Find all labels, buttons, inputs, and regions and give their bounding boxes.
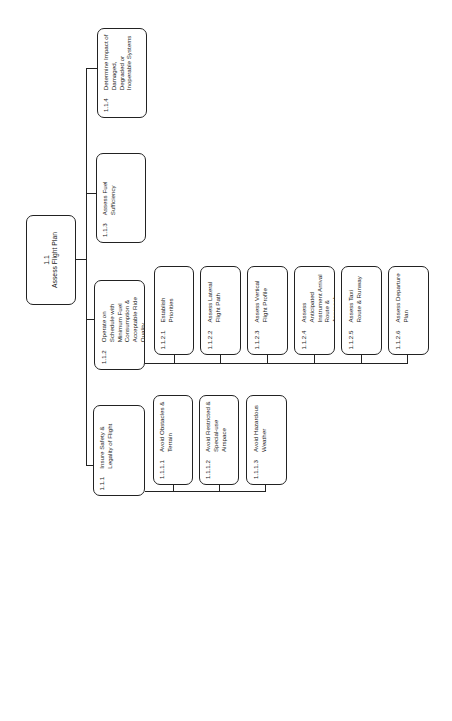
node-label: Insure Safety & Legality of Flight [98,411,114,468]
stub-1.1.2.3 [267,355,268,363]
node-1.1.3[interactable]: 1.1.3 Assess Fuel Sufficiency [96,153,146,243]
node-id: 1.1.1.1 [158,460,166,479]
branch-1.1.3 [86,193,96,194]
node-label: Assess Fuel Sufficiency [101,159,117,215]
node-1.1.1.1[interactable]: 1.1.1.1 Avoid Obstacles & Terrain [153,395,193,485]
node-1.1.2.1[interactable]: 1.1.2.1 Establish Priorities [154,266,194,355]
node-id: 1.1.2.3 [252,330,260,349]
branch-1.1.4 [86,68,97,69]
node-label: Assess Flight Plan [51,232,59,288]
node-1.1-assess-flight-plan[interactable]: 1.1 Assess Flight Plan [26,215,76,305]
group-1.1.1-bus [145,491,266,492]
stub-1.1.1.3 [265,485,266,491]
node-id: 1.1.2.5 [346,330,354,349]
node-id: 1.1.3 [101,223,109,237]
node-id: 1.1.2.4 [299,330,307,349]
stub-1.1.1.2 [219,485,220,491]
node-label: Avoid Obstacles & Terrain [158,401,174,452]
group-1.1.2-bus [145,363,408,364]
node-1.1.2.3[interactable]: 1.1.2.3 Assess Vertical Flight Profile [247,266,288,355]
node-label: Determine Impact of Damaged, Degraded or… [102,34,133,90]
node-label: Assess Vertical Flight Profile [252,272,268,322]
stub-1.1.2.2 [220,355,221,363]
node-label: Establish Priorities [159,272,175,322]
node-label: Assess Anticipated Instrument Arrival Ro… [299,272,335,322]
node-label: Avoid Hazardous Weather [251,401,267,452]
node-id: 1.1.1 [98,476,106,490]
node-id: 1.1.1.3 [251,460,259,479]
node-1.1.1.2[interactable]: 1.1.1.2 Avoid Restricted & Special-use A… [199,395,239,485]
stub-1.1.2.6 [407,355,408,363]
node-label: Operate on Schedule with Minimum Fuel Co… [99,286,145,342]
stub-1.1.1.1 [173,485,174,491]
node-id: 1.1.1.2 [204,460,212,479]
node-1.1.2.2[interactable]: 1.1.2.2 Assess Lateral Flight Path [200,266,241,355]
node-1.1.4[interactable]: 1.1.4 Determine Impact of Damaged, Degra… [97,28,147,118]
node-id: 1.1.2.6 [393,330,401,349]
node-id: 1.1.2.2 [205,330,213,349]
root-connector [76,259,86,260]
stub-1.1.2.4 [314,355,315,363]
node-1.1.2.6[interactable]: 1.1.2.6 Assess Departure Plan [388,266,429,355]
node-1.1.1[interactable]: 1.1.1 Insure Safety & Legality of Flight [93,405,145,496]
node-label: Assess Departure Plan [393,272,409,322]
stub-1.1.2.5 [361,355,362,363]
node-id: 1.1.2 [99,350,107,364]
node-label: Avoid Restricted & Special-use Airspace [204,401,227,452]
trunk-line [86,68,87,466]
node-id: 1.1.2.1 [159,330,167,349]
branch-1.1.2 [86,319,94,320]
node-1.1.1.3[interactable]: 1.1.1.3 Avoid Hazardous Weather [246,395,287,485]
node-1.1.2[interactable]: 1.1.2 Operate on Schedule with Minimum F… [94,280,145,370]
node-id: 1.1.4 [102,98,110,112]
branch-1.1.1 [86,465,93,466]
node-label: Assess Lateral Flight Path [205,272,221,322]
node-id: 1.1 [43,255,51,264]
node-1.1.2.5[interactable]: 1.1.2.5 Assess Taxi Route & Runway [341,266,382,355]
node-1.1.2.4[interactable]: 1.1.2.4 Assess Anticipated Instrument Ar… [294,266,335,355]
node-label: Assess Taxi Route & Runway [346,272,362,322]
stub-1.1.2.1 [174,355,175,363]
